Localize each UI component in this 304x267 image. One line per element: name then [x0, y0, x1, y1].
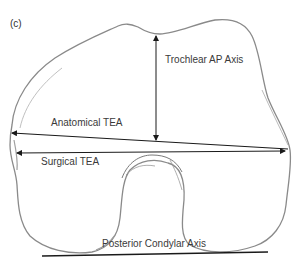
trochlear-ap-axis-label: Trochlear AP Axis — [165, 55, 243, 65]
femur-outline — [10, 20, 291, 253]
femur-axes-figure: (c) Trochlear AP Axis Anatomical TEA Sur… — [0, 0, 304, 267]
anatomical-tea-line — [12, 133, 288, 149]
surgical-tea-line — [17, 151, 285, 153]
anatomical-tea-label: Anatomical TEA — [51, 118, 123, 128]
surgical-tea-label: Surgical TEA — [41, 157, 99, 167]
posterior-condylar-axis-label: Posterior Condylar Axis — [102, 239, 206, 249]
panel-label: (c) — [10, 19, 22, 29]
femur-diagram — [0, 0, 304, 267]
